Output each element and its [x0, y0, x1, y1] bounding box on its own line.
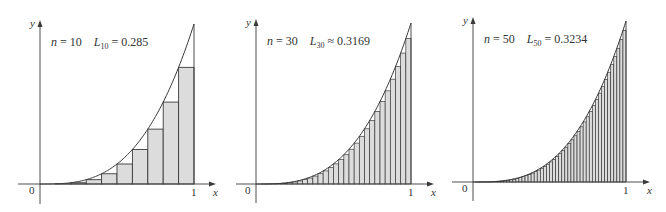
riemann-rectangle [365, 129, 370, 184]
origin-label: 0 [29, 184, 35, 196]
origin-label: 0 [245, 184, 251, 196]
panel-n10: 0 1 x y n = 10 L10 = 0.285 [18, 17, 218, 204]
riemann-rectangle [580, 127, 583, 182]
x-axis-label: x [212, 186, 218, 198]
riemann-rectangle [595, 100, 598, 182]
riemann-rectangle [577, 131, 580, 182]
riemann-rectangle [608, 72, 611, 182]
sum-annotation: n = 10 L10 = 0.285 [51, 35, 148, 51]
x-tick-one: 1 [191, 186, 197, 198]
riemann-rectangle [323, 171, 328, 184]
riemann-rectangle [568, 144, 571, 182]
riemann-rectangle [546, 164, 549, 182]
riemann-rectangle [396, 67, 401, 184]
riemann-rectangle [132, 149, 147, 184]
riemann-rectangle [537, 170, 540, 182]
riemann-rectangle [406, 39, 411, 184]
riemann-rectangle [303, 180, 308, 184]
riemann-rectangle [562, 151, 565, 182]
riemann-rectangle [614, 57, 617, 182]
riemann-rectangle [553, 159, 556, 182]
riemann-rectangle [318, 174, 323, 184]
riemann-rectangle [86, 180, 101, 184]
origin-label: 0 [462, 182, 468, 194]
riemann-rectangle [354, 143, 359, 184]
riemann-rectangle [308, 178, 313, 184]
riemann-rectangle [370, 121, 375, 184]
riemann-rectangle [519, 178, 522, 182]
riemann-rectangle [516, 178, 519, 182]
riemann-rectangle [565, 147, 568, 182]
riemann-rectangle [328, 168, 333, 184]
riemann-rectangle [375, 111, 380, 184]
x-axis-label: x [430, 186, 436, 198]
riemann-rectangle [543, 166, 546, 182]
riemann-rectangle [550, 162, 553, 182]
riemann-rectangle [179, 67, 194, 184]
y-axis-arrow-icon [471, 17, 476, 24]
x-axis-label: x [646, 184, 652, 196]
riemann-rectangle [592, 106, 595, 182]
riemann-rectangle [528, 174, 531, 182]
riemann-rectangle [598, 93, 601, 182]
riemann-rectangle [525, 176, 528, 182]
riemann-rectangle [359, 136, 364, 184]
riemann-rectangle [623, 30, 626, 182]
x-tick-one: 1 [623, 184, 629, 196]
panel-n30: 0 1 x y n = 30 L30 ≈ 0.3169 [236, 16, 436, 203]
riemann-rectangle [163, 102, 178, 184]
riemann-rectangle [380, 102, 385, 184]
riemann-rectangle [148, 129, 163, 184]
riemann-sum-figure: 0 1 x y n = 10 L10 = 0.285 0 1 x y n = 3… [0, 0, 666, 212]
riemann-rectangle [534, 172, 537, 182]
riemann-rectangle [540, 168, 543, 182]
y-axis-label: y [29, 17, 35, 29]
sum-annotation: n = 30 L30 ≈ 0.3169 [267, 34, 370, 50]
riemann-rectangle [385, 91, 390, 184]
riemann-rectangle [571, 140, 574, 182]
riemann-rectangle [611, 65, 614, 182]
riemann-rectangle [531, 173, 534, 182]
riemann-rectangle [583, 122, 586, 182]
riemann-rectangle [620, 40, 623, 182]
riemann-rectangle [334, 164, 339, 184]
riemann-rectangle [556, 157, 559, 182]
riemann-rectangle [401, 53, 406, 184]
riemann-rectangle [605, 80, 608, 182]
riemann-rectangle [586, 117, 589, 182]
sum-annotation: n = 50 L50 = 0.3234 [484, 32, 587, 48]
riemann-rectangle [522, 177, 525, 182]
riemann-rectangle [574, 136, 577, 182]
riemann-rectangle [349, 149, 354, 184]
riemann-rectangle [344, 155, 349, 184]
panel-n50: 0 1 x y n = 50 L50 = 0.3234 [452, 14, 652, 201]
riemann-rectangle [602, 87, 605, 182]
y-axis-arrow-icon [254, 19, 259, 26]
riemann-rectangle [117, 164, 132, 184]
riemann-rectangle [617, 48, 620, 182]
riemann-rectangle [313, 176, 318, 184]
riemann-rectangle [102, 174, 117, 184]
riemann-rectangle [339, 160, 344, 184]
riemann-rectangle [559, 154, 562, 182]
y-axis-arrow-icon [38, 20, 43, 27]
riemann-rectangle [589, 111, 592, 182]
riemann-rectangle [297, 181, 302, 184]
y-axis-label: y [245, 16, 251, 28]
riemann-rectangle [390, 79, 395, 184]
y-axis-label: y [462, 14, 468, 26]
x-tick-one: 1 [408, 186, 414, 198]
